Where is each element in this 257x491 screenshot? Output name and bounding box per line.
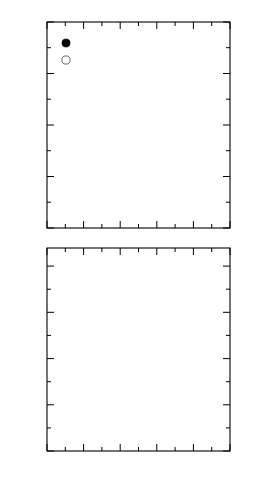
top-panel-x-ticks xyxy=(47,22,230,228)
bottom-panel-y-ticks xyxy=(47,266,230,451)
top-panel xyxy=(0,0,230,228)
legend xyxy=(0,0,70,64)
legend-marker-A_SP xyxy=(62,56,70,64)
legend-marker-A_BP xyxy=(62,39,70,47)
bottom-panel xyxy=(0,0,230,451)
figure-root xyxy=(0,0,257,491)
bottom-panel-frame xyxy=(47,248,230,451)
top-panel-frame xyxy=(47,22,230,228)
bottom-panel-x-ticks xyxy=(47,248,230,451)
figure-svg xyxy=(0,0,257,491)
top-panel-y-ticks xyxy=(47,22,230,228)
